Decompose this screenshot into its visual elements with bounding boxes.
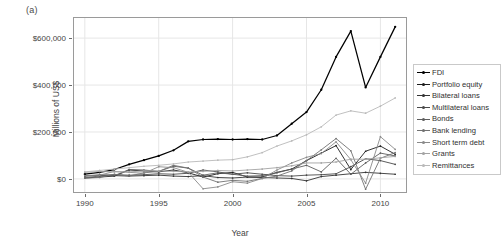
data-point xyxy=(291,165,293,167)
data-point xyxy=(306,164,308,166)
legend-item-portfolio-equity[interactable]: Portfolio equity xyxy=(416,79,498,91)
data-point xyxy=(187,167,189,169)
data-point xyxy=(291,123,293,125)
data-point xyxy=(217,159,219,161)
data-point xyxy=(335,141,337,143)
legend-label: Short term debt xyxy=(432,139,484,147)
data-point xyxy=(217,177,219,179)
legend-item-remittances[interactable]: Remittances xyxy=(416,160,498,172)
data-point xyxy=(394,26,396,28)
data-point xyxy=(143,165,145,167)
data-point xyxy=(187,161,189,163)
data-point xyxy=(173,167,175,169)
data-point xyxy=(335,145,337,147)
data-point xyxy=(276,175,278,177)
data-point xyxy=(320,126,322,128)
data-point xyxy=(202,188,204,190)
y-tick-mark xyxy=(69,132,72,133)
data-point xyxy=(261,175,263,177)
data-point xyxy=(99,177,101,179)
data-point xyxy=(128,167,130,169)
data-point xyxy=(261,152,263,154)
data-point xyxy=(247,175,249,177)
data-point xyxy=(247,169,249,171)
data-point xyxy=(365,162,367,164)
data-point xyxy=(172,149,174,151)
data-point xyxy=(335,138,337,140)
legend-item-short-term-debt[interactable]: Short term debt xyxy=(416,137,498,149)
legend-item-bonds[interactable]: Bonds xyxy=(416,113,498,125)
data-point xyxy=(394,156,396,158)
data-point xyxy=(276,167,278,169)
data-point xyxy=(247,180,249,182)
data-point xyxy=(394,152,396,154)
data-point xyxy=(202,176,204,178)
legend-label: Multilateral loans xyxy=(432,104,489,112)
legend-item-multilateral-loans[interactable]: Multilateral loans xyxy=(416,102,498,114)
y-tick-mark xyxy=(69,179,72,180)
data-point xyxy=(276,145,278,147)
legend-item-bilateral-loans[interactable]: Bilateral loans xyxy=(416,90,498,102)
data-point xyxy=(364,86,366,88)
data-point xyxy=(365,150,367,152)
x-tick-label: 2010 xyxy=(371,199,389,208)
data-point xyxy=(320,174,322,176)
data-point xyxy=(143,170,145,172)
x-tick-mark xyxy=(380,194,381,197)
data-point xyxy=(350,150,352,152)
data-point xyxy=(380,157,382,159)
data-point xyxy=(291,178,293,180)
data-point xyxy=(291,168,293,170)
data-point xyxy=(114,171,116,173)
data-point xyxy=(320,153,322,155)
legend-label: Portfolio equity xyxy=(432,81,482,89)
data-point xyxy=(276,134,278,136)
y-tick-mark xyxy=(69,85,72,86)
data-point xyxy=(173,175,175,177)
data-point xyxy=(217,186,219,188)
data-point xyxy=(217,170,219,172)
data-point xyxy=(335,114,337,116)
data-point xyxy=(350,166,352,168)
data-point xyxy=(247,182,249,184)
data-point xyxy=(232,159,234,161)
data-point xyxy=(380,145,382,147)
data-point xyxy=(335,173,337,175)
data-point xyxy=(365,172,367,174)
data-point xyxy=(365,158,367,160)
x-tick-label: 1990 xyxy=(76,199,94,208)
legend-item-fdi[interactable]: FDI xyxy=(416,67,498,79)
legend-key-icon xyxy=(416,125,431,136)
data-point xyxy=(114,168,116,170)
data-point xyxy=(335,157,337,159)
x-tick-mark xyxy=(307,194,308,197)
figure-panel-a: (a) Millions of US$ $0$200,000$400,000$6… xyxy=(0,0,503,249)
data-point xyxy=(306,160,308,162)
x-tick-mark xyxy=(85,194,86,197)
data-point xyxy=(173,171,175,173)
data-point xyxy=(320,162,322,164)
data-point xyxy=(246,138,248,140)
data-point xyxy=(84,175,86,177)
data-point xyxy=(187,171,189,173)
x-tick-mark xyxy=(233,194,234,197)
data-point xyxy=(261,178,263,180)
data-point xyxy=(320,89,322,91)
x-tick-label: 1995 xyxy=(150,199,168,208)
data-point xyxy=(128,175,130,177)
data-point xyxy=(232,173,234,175)
data-point xyxy=(276,172,278,174)
legend-item-bank-lending[interactable]: Bank lending xyxy=(416,125,498,137)
data-point xyxy=(276,177,278,179)
data-point xyxy=(350,110,352,112)
legend-key-icon xyxy=(416,114,431,125)
legend-key-icon xyxy=(416,79,431,90)
legend-key-icon xyxy=(416,160,431,171)
data-point xyxy=(173,173,175,175)
data-point xyxy=(217,172,219,174)
y-tick-mark xyxy=(69,38,72,39)
data-point xyxy=(231,138,233,140)
legend-key-icon xyxy=(416,90,431,101)
legend-item-grants[interactable]: Grants xyxy=(416,148,498,160)
data-point xyxy=(84,171,86,173)
